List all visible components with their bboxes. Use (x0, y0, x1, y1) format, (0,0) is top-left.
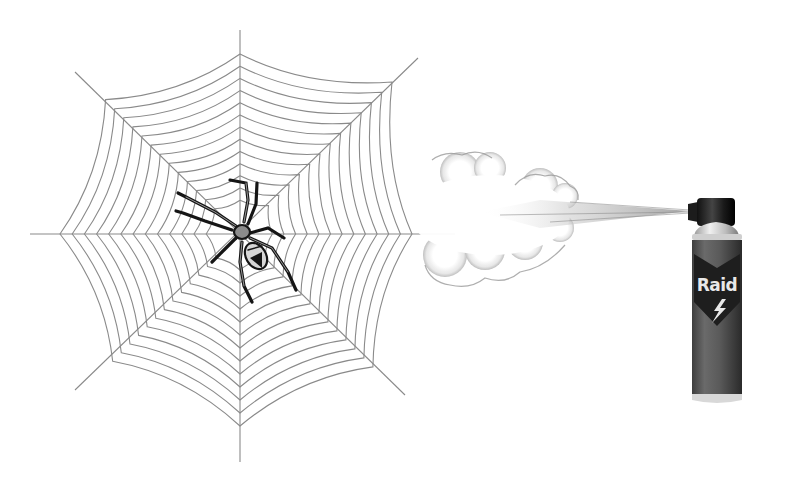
can-rim (692, 394, 742, 403)
spray-can: Raid (688, 198, 742, 403)
nozzle (688, 202, 698, 222)
spray-cloud (410, 152, 690, 286)
illustration: Raid (0, 0, 785, 484)
can-cap (697, 198, 735, 226)
brand-label: Raid (697, 275, 738, 295)
